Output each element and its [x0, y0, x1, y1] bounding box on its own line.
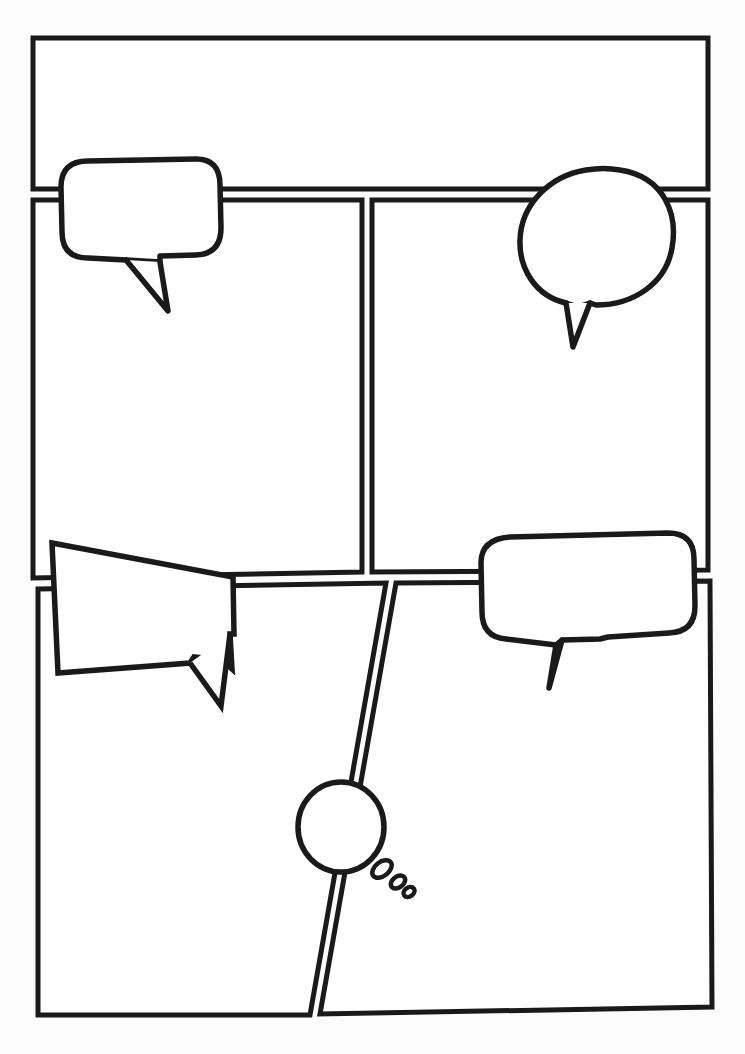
speech-bubble-1-body[interactable] [61, 159, 221, 262]
comic-page [0, 0, 745, 1054]
thought-bubble-5-body[interactable] [298, 782, 384, 872]
speech-bubble-2-body[interactable] [520, 169, 673, 308]
comic-page-canvas [0, 0, 745, 1054]
speech-bubble-4-body[interactable] [481, 533, 695, 645]
